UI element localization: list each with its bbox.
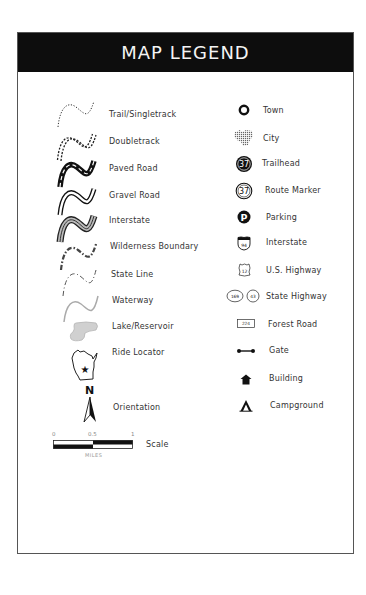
scale-tick-half: 0.5 <box>88 431 97 437</box>
route-marker-icon: 37 <box>235 182 253 200</box>
legend-label-doubletrack: Doubletrack <box>109 137 160 146</box>
campground-icon <box>239 399 253 412</box>
legend-title: MAP LEGEND <box>121 42 249 63</box>
us-highway-number: 12 <box>242 269 248 274</box>
legend-label-interstate-shield: Interstate <box>266 238 307 247</box>
legend-label-paved-road: Paved Road <box>109 164 158 173</box>
parking-glyph: P <box>241 212 248 223</box>
forest-road-number: 224 <box>242 321 250 326</box>
legend-label-wilderness-boundary: Wilderness Boundary <box>110 242 199 251</box>
scale-bar-icon <box>53 440 133 449</box>
legend-header: MAP LEGEND <box>18 33 353 72</box>
legend-label-forest-road: Forest Road <box>268 320 317 329</box>
legend-label-state-line: State Line <box>111 270 153 279</box>
legend-label-campground: Campground <box>270 401 324 410</box>
legend-label-gravel-road: Gravel Road <box>109 191 160 200</box>
trailhead-number: 37 <box>239 160 249 169</box>
scale-tick-0: 0 <box>52 431 56 437</box>
parking-icon: P <box>237 210 251 224</box>
legend-label-city: City <box>263 134 279 143</box>
legend-label-gate: Gate <box>269 346 289 355</box>
city-icon <box>233 128 255 148</box>
interstate-number: 94 <box>241 243 247 248</box>
us-highway-shield-icon: 12 <box>238 263 251 277</box>
trailhead-icon: 37 <box>235 155 253 173</box>
gate-icon <box>237 348 255 354</box>
legend-label-trailhead: Trailhead <box>262 159 300 168</box>
legend-label-scale: Scale <box>146 440 169 449</box>
scale-tick-1: 1 <box>131 431 135 437</box>
lake-reservoir-icon <box>68 320 100 344</box>
legend-label-building: Building <box>269 374 303 383</box>
ride-locator-icon: ★ <box>70 347 100 383</box>
building-icon <box>240 374 252 385</box>
legend-label-route-marker: Route Marker <box>265 186 321 195</box>
legend-label-lake-reservoir: Lake/Reservoir <box>112 322 174 331</box>
north-arrow-icon <box>82 396 98 424</box>
svg-text:★: ★ <box>81 364 90 375</box>
legend-label-state-highway: State Highway <box>266 292 327 301</box>
state-highway-icon: 169 43 <box>226 289 262 303</box>
legend-label-trail-singletrack: Trail/Singletrack <box>109 110 176 119</box>
legend-label-us-highway: U.S. Highway <box>266 266 322 275</box>
legend-label-orientation: Orientation <box>113 403 160 412</box>
state-highway-number-2: 43 <box>250 294 256 299</box>
town-icon <box>238 104 250 116</box>
state-highway-number-1: 169 <box>231 294 239 299</box>
forest-road-icon: 224 <box>237 319 255 328</box>
route-marker-number: 37 <box>239 187 249 196</box>
legend-label-interstate-line: Interstate <box>109 216 150 225</box>
legend-label-parking: Parking <box>266 213 297 222</box>
scale-unit: MILES <box>85 452 102 458</box>
interstate-shield-icon: 94 <box>237 236 251 251</box>
legend-label-waterway: Waterway <box>112 296 153 305</box>
trail-singletrack-icon <box>56 97 98 129</box>
legend-label-town: Town <box>263 106 284 115</box>
legend-label-ride-locator: Ride Locator <box>112 348 165 357</box>
